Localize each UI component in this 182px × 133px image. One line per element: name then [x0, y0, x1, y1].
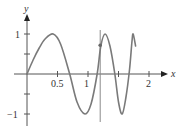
x-tick-label-0.5: 0.5	[51, 78, 64, 89]
marker-point	[98, 43, 102, 47]
y-tick-label-minus-1: −1	[7, 109, 18, 120]
x-axis-label: x	[170, 68, 176, 79]
y-axis-arrow-icon	[24, 14, 30, 21]
axes	[14, 14, 168, 126]
chart: x y 0.5 1 2 1 −1	[0, 0, 182, 133]
y-tick-label-1: 1	[15, 29, 20, 40]
x-tick-label-1: 1	[84, 78, 89, 89]
y-axis-label: y	[23, 3, 29, 14]
x-axis-arrow-icon	[161, 71, 168, 77]
x-tick-label-2: 2	[146, 78, 151, 89]
